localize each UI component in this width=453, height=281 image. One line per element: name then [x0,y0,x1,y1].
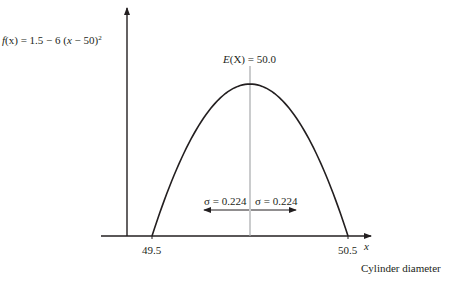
function-exponent: 2 [98,34,102,42]
sigma-left-label: σ = 0.224 [204,196,246,207]
function-label: f(x) = 1.5 − 6 (x − 50)2 [2,35,102,46]
mean-label-value: = 50.0 [245,53,276,65]
x-axis-caption: Cylinder diameter [361,263,441,274]
function-rest: − 50) [72,34,98,46]
mean-label: E(X) = 50.0 [223,54,276,65]
mean-label-arg: (X) [230,53,245,65]
function-body: = 1.5 − 6 ( [18,34,67,46]
x-tick-label-50-5: 50.5 [338,245,357,256]
x-tick-label-49-5: 49.5 [142,245,161,256]
mean-label-e: E [223,53,230,65]
x-axis-label: x [364,241,369,252]
function-arg: (x) [5,34,18,46]
sigma-right-label: σ = 0.224 [255,196,297,207]
